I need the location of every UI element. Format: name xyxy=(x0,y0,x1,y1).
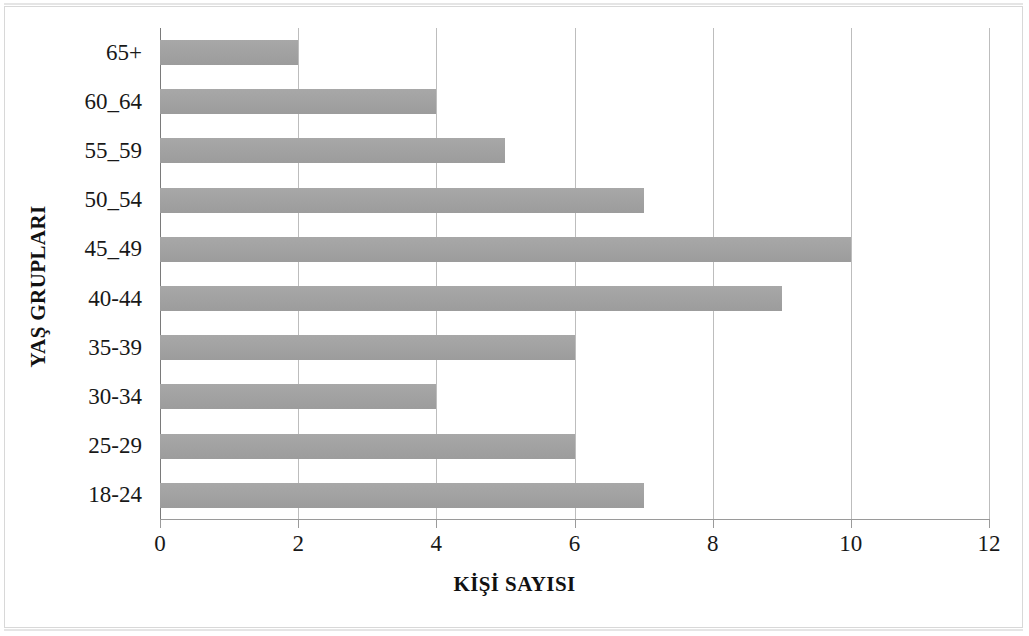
bar xyxy=(160,434,575,459)
bar xyxy=(160,138,505,163)
y-axis-tick-label: 50_54 xyxy=(85,188,143,211)
bar xyxy=(160,335,575,360)
bar xyxy=(160,483,644,508)
x-axis-tick xyxy=(713,520,714,528)
y-axis-tick-label: 25-29 xyxy=(88,434,142,457)
x-axis-tick xyxy=(298,520,299,528)
y-axis-tick-label: 45_49 xyxy=(85,237,143,260)
x-axis-tick xyxy=(160,520,161,528)
x-axis-tick xyxy=(851,520,852,528)
bar-row xyxy=(160,126,989,175)
y-axis-tick-label: 55_59 xyxy=(85,139,143,162)
bar-row xyxy=(160,471,989,520)
x-axis-tick-labels: 024681012 xyxy=(160,532,989,566)
x-axis-tick-label: 10 xyxy=(839,532,862,555)
bar xyxy=(160,384,436,409)
y-axis-tick-label: 35-39 xyxy=(88,336,142,359)
bar-row xyxy=(160,176,989,225)
bar xyxy=(160,188,644,213)
bar-chart-figure: YAŞ GRUPLARI 65+60_6455_5950_5445_4940-4… xyxy=(0,0,1029,636)
y-axis-tick-label: 60_64 xyxy=(85,90,143,113)
x-axis-tick xyxy=(575,520,576,528)
x-axis-tick xyxy=(989,520,990,528)
bar-row xyxy=(160,372,989,421)
page-scan-edge-bottom xyxy=(4,629,1023,631)
bar xyxy=(160,237,851,262)
y-axis-tick-label: 18-24 xyxy=(88,483,142,506)
bar-row xyxy=(160,274,989,323)
bar-row xyxy=(160,422,989,471)
x-axis-tick xyxy=(436,520,437,528)
bar xyxy=(160,89,436,114)
bar-row xyxy=(160,225,989,274)
page-scan-edge-top xyxy=(4,3,1023,5)
plot-area xyxy=(160,28,989,520)
x-axis-title: KİŞİ SAYISI xyxy=(0,572,1029,597)
y-axis-tick-labels: 65+60_6455_5950_5445_4940-4435-3930-3425… xyxy=(0,28,152,520)
x-axis-tick-label: 4 xyxy=(431,532,443,555)
y-axis-tick-label: 65+ xyxy=(106,41,142,64)
x-axis-tick-label: 12 xyxy=(978,532,1001,555)
x-axis-tick-label: 0 xyxy=(154,532,166,555)
bar-row xyxy=(160,28,989,77)
bar-row xyxy=(160,323,989,372)
bar xyxy=(160,40,298,65)
y-axis-tick-label: 30-34 xyxy=(88,385,142,408)
x-axis-tick-label: 2 xyxy=(292,532,304,555)
bar-row xyxy=(160,77,989,126)
x-axis-tick-label: 8 xyxy=(707,532,719,555)
gridline xyxy=(989,28,990,520)
y-axis-tick-label: 40-44 xyxy=(88,287,142,310)
bar xyxy=(160,286,782,311)
bar-series xyxy=(160,28,989,520)
x-axis-tick-label: 6 xyxy=(569,532,581,555)
